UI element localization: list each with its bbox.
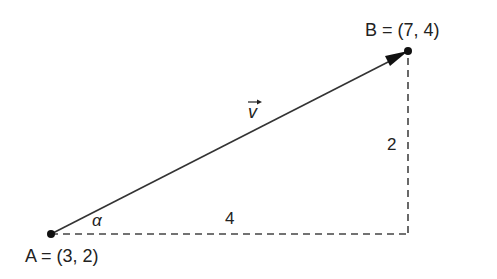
- vector-label: v: [248, 102, 258, 122]
- angle-alpha-label: α: [92, 211, 103, 230]
- vector-arrowhead: [385, 51, 408, 66]
- vertical-leg-length: 2: [387, 135, 396, 154]
- horizontal-leg-length: 4: [225, 209, 234, 228]
- vector-diagram: B = (7, 4) A = (3, 2) v α 4 2: [0, 0, 497, 279]
- vector-v-line: [51, 60, 392, 234]
- point-a: [47, 230, 55, 238]
- point-a-label: A = (3, 2): [25, 246, 99, 266]
- vector-overarrow-head: [257, 100, 262, 105]
- point-b: [404, 47, 412, 55]
- point-b-label: B = (7, 4): [365, 20, 440, 40]
